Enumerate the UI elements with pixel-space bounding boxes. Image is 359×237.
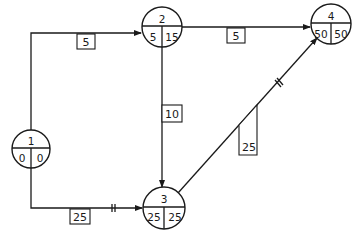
edge-1-3: 25 [31, 168, 142, 224]
node-4: 4 50 50 [311, 4, 351, 44]
critical-path-marker [275, 78, 283, 87]
node-4-id: 4 [328, 10, 335, 22]
node-3-early: 25 [147, 211, 160, 223]
edge-1-2-duration: 5 [83, 36, 90, 49]
node-3-id: 3 [161, 193, 168, 205]
node-3-late: 25 [168, 211, 181, 223]
node-4-late: 50 [334, 28, 347, 40]
node-2-id: 2 [159, 13, 166, 25]
node-1-late: 0 [37, 152, 44, 164]
edge-3-4-duration: 25 [242, 141, 256, 154]
node-1-id: 1 [28, 135, 35, 147]
edge-1-2: 5 [31, 33, 141, 130]
node-3: 3 25 25 [143, 187, 185, 229]
edge-1-3-duration: 25 [73, 211, 87, 224]
edge-2-3-duration: 10 [165, 108, 179, 121]
node-2: 2 5 15 [142, 7, 182, 47]
edge-2-3: 10 [162, 47, 182, 187]
node-1: 1 0 0 [12, 130, 50, 168]
network-diagram: 5 5 10 25 25 1 0 0 [0, 0, 359, 237]
edge-2-4-duration: 5 [233, 30, 240, 43]
node-1-early: 0 [19, 152, 26, 164]
edge-2-4: 5 [182, 27, 310, 43]
node-2-early: 5 [150, 31, 157, 43]
node-4-early: 50 [314, 28, 327, 40]
edge-3-4: 25 [178, 38, 317, 193]
node-2-late: 15 [165, 31, 178, 43]
